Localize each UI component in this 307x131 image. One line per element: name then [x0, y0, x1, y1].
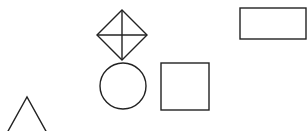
diamond-shape — [97, 10, 147, 60]
shapes-canvas — [0, 0, 307, 131]
triangle-shape — [7, 97, 47, 131]
circle-shape — [100, 63, 146, 109]
square-shape — [161, 63, 209, 110]
rectangle-shape — [240, 8, 306, 39]
